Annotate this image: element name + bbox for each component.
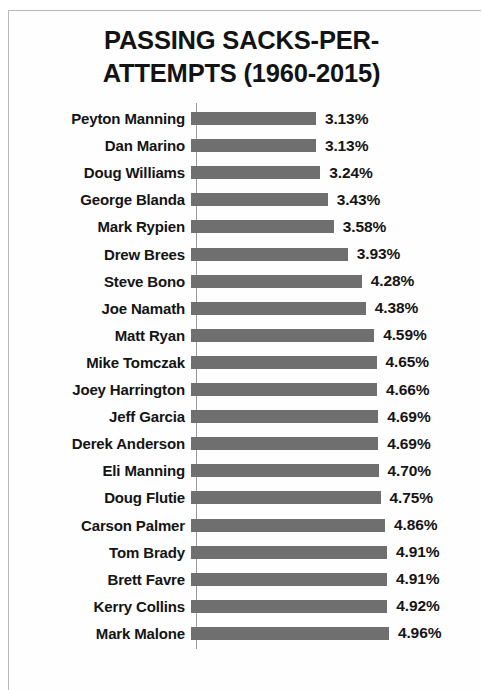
bar-value-label: 4.96% [398, 624, 441, 642]
bar [191, 437, 378, 450]
bar-value-label: 4.91% [396, 543, 439, 561]
category-label: Matt Ryan [9, 327, 191, 344]
bar-value-label: 3.13% [325, 137, 368, 155]
bar-track: 4.69% [191, 403, 482, 430]
bar-row: George Blanda3.43% [9, 186, 482, 213]
bar-track: 4.86% [191, 512, 482, 539]
bar-value-label: 4.28% [371, 272, 414, 290]
bar-value-label: 4.38% [375, 299, 418, 317]
category-label: Brett Favre [9, 571, 191, 588]
bar-value-label: 4.69% [387, 408, 430, 426]
bar-track: 4.65% [191, 349, 482, 376]
bar-track: 3.13% [191, 105, 482, 132]
bar-row: Mark Malone4.96% [9, 620, 482, 647]
bar-track: 4.91% [191, 566, 482, 593]
bar [191, 139, 316, 152]
bar-value-label: 4.75% [390, 489, 433, 507]
category-label: Joe Namath [9, 300, 191, 317]
bar [191, 600, 387, 613]
bar-row: Joe Namath4.38% [9, 295, 482, 322]
category-label: Mark Malone [9, 625, 191, 642]
bar-value-label: 4.86% [394, 516, 437, 534]
bar-value-label: 3.58% [343, 218, 386, 236]
bar [191, 302, 366, 315]
bar-track: 3.93% [191, 241, 482, 268]
bar-row: Eli Manning4.70% [9, 457, 482, 484]
chart-title: PASSING SACKS-PER- ATTEMPTS (1960-2015) [9, 24, 474, 90]
category-label: Derek Anderson [9, 435, 191, 452]
bar-row: Doug Flutie4.75% [9, 484, 482, 511]
category-label: Peyton Manning [9, 110, 191, 127]
bar [191, 112, 316, 125]
category-label: Jeff Garcia [9, 408, 191, 425]
category-label: Drew Brees [9, 246, 191, 263]
bar [191, 546, 387, 559]
bar [191, 383, 377, 396]
bar-row: Drew Brees3.93% [9, 241, 482, 268]
bar-track: 4.75% [191, 484, 482, 511]
bar [191, 356, 377, 369]
bar-value-label: 4.70% [388, 462, 431, 480]
bar-value-label: 3.13% [325, 110, 368, 128]
bar-value-label: 4.92% [396, 597, 439, 615]
bar-row: Tom Brady4.91% [9, 539, 482, 566]
category-label: Tom Brady [9, 544, 191, 561]
bar-row: Mike Tomczak4.65% [9, 349, 482, 376]
bar-row: Matt Ryan4.59% [9, 322, 482, 349]
bar-track: 3.24% [191, 159, 482, 186]
bar [191, 275, 362, 288]
bar-track: 4.28% [191, 268, 482, 295]
category-label: Kerry Collins [9, 598, 191, 615]
bar-row: Derek Anderson4.69% [9, 430, 482, 457]
bar-row: Kerry Collins4.92% [9, 593, 482, 620]
bar-value-label: 4.91% [396, 570, 439, 588]
bar-track: 4.59% [191, 322, 482, 349]
bar-track: 4.66% [191, 376, 482, 403]
bar-row: Carson Palmer4.86% [9, 512, 482, 539]
bar-row: Peyton Manning3.13% [9, 105, 482, 132]
bar [191, 491, 381, 504]
bar-row: Doug Williams3.24% [9, 159, 482, 186]
category-label: Doug Williams [9, 164, 191, 181]
bar [191, 410, 378, 423]
bar-track: 4.38% [191, 295, 482, 322]
bar-value-label: 4.69% [387, 435, 430, 453]
bar-value-label: 4.66% [386, 381, 429, 399]
bar [191, 519, 385, 532]
bar-track: 4.69% [191, 430, 482, 457]
bar-row: Steve Bono4.28% [9, 268, 482, 295]
bar-value-label: 4.65% [386, 353, 429, 371]
category-label: Dan Marino [9, 137, 191, 154]
bar-track: 4.96% [191, 620, 482, 647]
bar [191, 573, 387, 586]
bar [191, 248, 348, 261]
bar [191, 166, 320, 179]
category-label: Steve Bono [9, 273, 191, 290]
chart-container: PASSING SACKS-PER- ATTEMPTS (1960-2015) … [8, 10, 481, 690]
bar-row: Brett Favre4.91% [9, 566, 482, 593]
category-label: Carson Palmer [9, 517, 191, 534]
bar-track: 4.70% [191, 457, 482, 484]
category-label: Doug Flutie [9, 489, 191, 506]
bar-track: 3.43% [191, 186, 482, 213]
category-label: Mike Tomczak [9, 354, 191, 371]
bar-row: Mark Rypien3.58% [9, 213, 482, 240]
bar-row: Joey Harrington4.66% [9, 376, 482, 403]
bar [191, 220, 334, 233]
bar-row: Jeff Garcia4.69% [9, 403, 482, 430]
category-label: Mark Rypien [9, 218, 191, 235]
bar-track: 3.58% [191, 213, 482, 240]
bar-value-label: 3.24% [329, 164, 372, 182]
plot-area: Peyton Manning3.13%Dan Marino3.13%Doug W… [9, 98, 482, 658]
bar [191, 464, 379, 477]
bar-track: 3.13% [191, 132, 482, 159]
bar-row: Dan Marino3.13% [9, 132, 482, 159]
category-label: George Blanda [9, 191, 191, 208]
bar-value-label: 3.93% [357, 245, 400, 263]
category-label: Eli Manning [9, 462, 191, 479]
bar-track: 4.92% [191, 593, 482, 620]
bar-value-label: 4.59% [383, 326, 426, 344]
bar [191, 329, 374, 342]
bar-value-label: 3.43% [337, 191, 380, 209]
bar [191, 193, 328, 206]
